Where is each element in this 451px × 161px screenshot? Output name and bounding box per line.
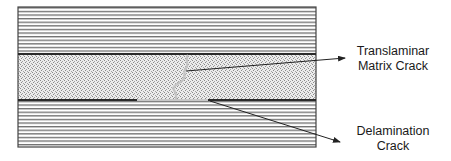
translaminar-label-line1: Translaminar [350,44,436,59]
delamination-label-line1: Delamination [350,124,436,139]
top-ply [18,7,316,54]
translaminar-matrix-crack-label: Translaminar Matrix Crack [350,44,436,74]
delamination-crack-label: Delamination Crack [350,124,436,154]
delamination-label-line2: Crack [350,139,436,154]
translaminar-label-line2: Matrix Crack [350,59,436,74]
middle-ply [18,54,316,100]
bottom-ply [18,100,316,147]
